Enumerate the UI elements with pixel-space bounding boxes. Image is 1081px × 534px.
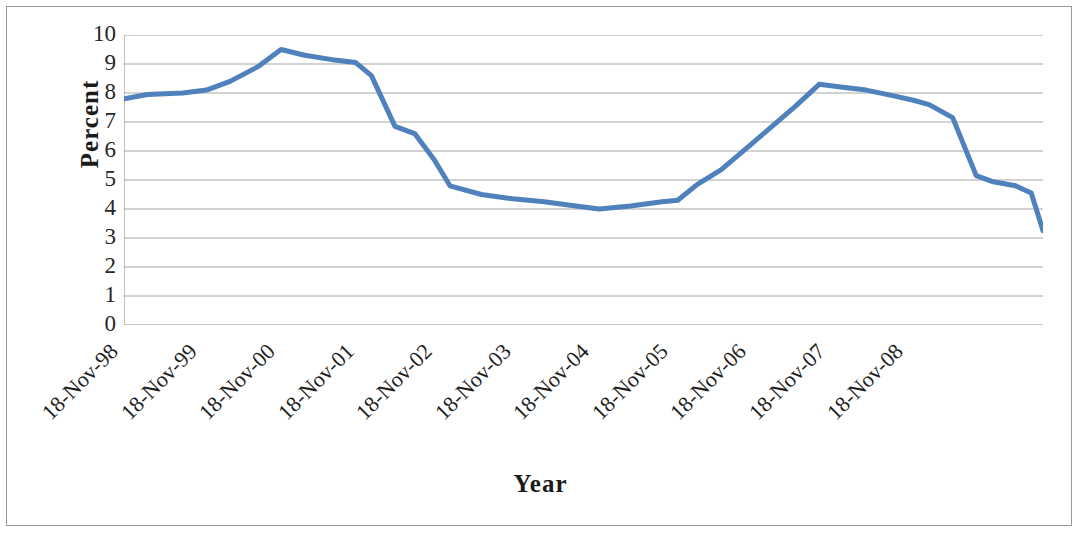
x-tick-label: 18-Nov-07 bbox=[745, 340, 829, 424]
x-tick-label: 18-Nov-08 bbox=[824, 340, 908, 424]
x-tick-label: 18-Nov-98 bbox=[38, 340, 122, 424]
x-tick-label: 18-Nov-05 bbox=[588, 340, 672, 424]
x-axis-tick-labels: 18-Nov-9818-Nov-9918-Nov-0018-Nov-0118-N… bbox=[0, 0, 1081, 534]
chart-figure: Percent 109876543210 18-Nov-9818-Nov-991… bbox=[0, 0, 1081, 534]
x-axis-title: Year bbox=[0, 470, 1081, 498]
x-tick-label: 18-Nov-06 bbox=[667, 340, 751, 424]
x-tick-label: 18-Nov-01 bbox=[274, 340, 358, 424]
x-tick-label: 18-Nov-04 bbox=[510, 340, 594, 424]
x-tick-label: 18-Nov-02 bbox=[352, 340, 436, 424]
x-tick-label: 18-Nov-99 bbox=[117, 340, 201, 424]
x-tick-label: 18-Nov-03 bbox=[431, 340, 515, 424]
x-tick-label: 18-Nov-00 bbox=[195, 340, 279, 424]
